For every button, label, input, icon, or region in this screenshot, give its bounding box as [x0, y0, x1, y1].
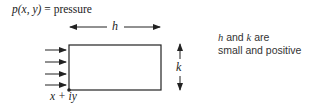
- note-are: are: [251, 31, 269, 43]
- height-label: k: [176, 59, 181, 76]
- width-label: h: [109, 19, 121, 34]
- note-line-1: h and k are: [218, 31, 301, 44]
- corner-label: x + iy: [50, 90, 77, 102]
- pressure-arrows: [45, 50, 66, 85]
- rectangle-element: [69, 45, 161, 90]
- note-and: and: [223, 31, 246, 43]
- note-line-2: small and positive: [218, 44, 301, 57]
- annotation-note: h and k are small and positive: [218, 31, 301, 57]
